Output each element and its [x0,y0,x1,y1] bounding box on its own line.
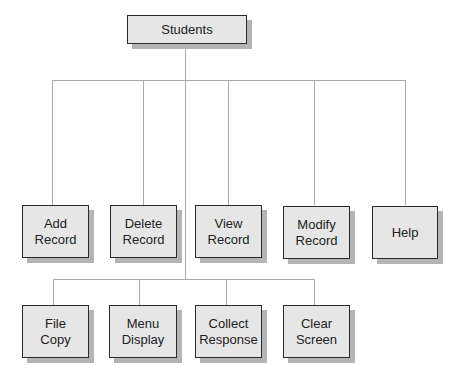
node-help: Help [372,206,438,259]
row2-connector-file [53,279,54,305]
node-label: Menu Display [122,316,165,348]
node-students: Students [127,15,247,44]
node-delete-record: Delete Record [110,205,177,258]
node-collect-response: Collect Response [195,305,262,358]
node-clear-screen: Clear Screen [283,305,350,358]
row2-connector-collect [226,279,227,305]
node-file-copy: File Copy [22,305,89,358]
node-add-record: Add Record [22,205,89,258]
node-modify-record: Modify Record [283,206,350,259]
row1-connector-modify [314,80,315,205]
node-label: Clear Screen [296,316,337,348]
node-label: File Copy [40,316,70,348]
row1-connector-delete [143,80,144,205]
node-label: Collect Response [199,316,258,348]
node-label: Modify Record [296,217,338,249]
node-label: View Record [208,216,250,248]
row1-connector-help [405,80,406,205]
trunk-line [185,43,186,279]
row1-connector-add [52,80,53,205]
row2-connector-horizontal [53,279,315,280]
row1-connector-view [228,80,229,205]
node-label: Add Record [35,216,77,248]
row2-connector-clear [314,279,315,305]
row2-connector-menu [139,279,140,305]
node-label: Students [161,22,212,38]
node-label: Delete Record [123,216,165,248]
node-menu-display: Menu Display [109,305,177,358]
node-label: Help [392,225,419,241]
node-view-record: View Record [195,205,262,258]
row1-connector-horizontal [52,80,406,81]
